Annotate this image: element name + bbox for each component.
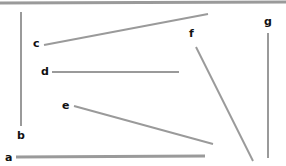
segment-a — [16, 156, 205, 157]
segment-e — [74, 106, 213, 144]
segment-label-c: c — [33, 38, 40, 49]
diagram-canvas: a b c d e f g — [0, 0, 286, 166]
segment-label-b: b — [17, 130, 25, 141]
segment-f — [196, 47, 253, 161]
segment-label-f: f — [189, 28, 194, 39]
segment-top-border — [0, 2, 286, 3]
segment-label-a: a — [5, 152, 12, 163]
segment-c — [44, 14, 208, 45]
segment-label-g: g — [264, 16, 272, 27]
line-segments-group — [0, 0, 286, 166]
segment-label-e: e — [62, 100, 69, 111]
segment-label-d: d — [41, 66, 49, 77]
